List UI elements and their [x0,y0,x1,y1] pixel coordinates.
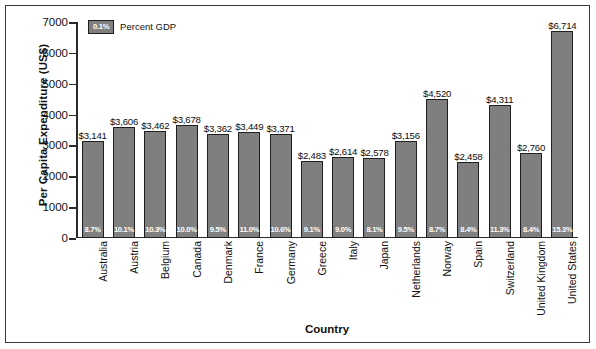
x-axis-tick-label: Canada [191,241,203,278]
x-axis-tick-label: Italy [347,241,359,260]
bar-slot: $2,5788.1% [359,22,390,238]
bar-series: $3,1418.7%$3,60610.1%$3,46210.3%$3,67810… [77,22,578,238]
x-tick-slot: Australia [77,241,108,319]
x-tick-slot: Norway [421,241,452,319]
y-axis-tick-label: 4000 [22,110,68,122]
bar-percent-gdp-label: 9.1% [304,225,320,234]
y-axis-tick [69,238,76,240]
bar-percent-gdp-label: 9.5% [398,225,414,234]
bar-slot: $2,7608.4% [515,22,546,238]
y-axis-tick-label: 5000 [22,79,68,91]
bar[interactable]: $3,67810.0% [176,125,198,238]
bar-percent-gdp-label: 9.0% [335,225,351,234]
bar-value-label: $2,483 [298,150,326,161]
y-axis-tick [69,145,76,147]
bar-percent-gdp-label: 10.0% [177,225,197,234]
x-axis-tick-label: Netherlands [410,241,422,298]
y-axis-tick-label: 1000 [22,202,68,214]
y-axis-tick-label: 2000 [22,171,68,183]
x-axis-tick-label: Japan [378,241,390,270]
bar[interactable]: $3,1418.7% [82,141,104,238]
y-axis-tick [69,207,76,209]
bar[interactable]: $3,37110.6% [270,134,292,238]
x-axis-tick-label: Germany [285,241,297,284]
legend-swatch-percent-gdp: 0.1% [88,20,114,34]
bar-slot: $3,67810.0% [171,22,202,238]
bar-value-label: $4,520 [423,88,451,99]
bar-value-label: $3,362 [204,123,232,134]
bar-slot: $3,3629.5% [202,22,233,238]
bar[interactable]: $3,3629.5% [207,134,229,238]
y-axis-tick [69,22,76,24]
bar-value-label: $4,311 [486,94,513,105]
x-tick-slot: Netherlands [390,241,421,319]
x-tick-slot: France [234,241,265,319]
x-axis-tick-label: Greece [316,241,328,275]
bar-percent-gdp-label: 15.3% [552,225,572,234]
bar-percent-gdp-label: 8.4% [523,225,539,234]
x-tick-slot: Spain [453,241,484,319]
bar-slot: $4,5208.7% [421,22,452,238]
bar[interactable]: $2,7608.4% [520,153,542,238]
bar-value-label: $3,449 [235,121,263,132]
bar[interactable]: $4,5208.7% [426,99,448,238]
bar-value-label: $2,760 [517,142,545,153]
x-tick-slot: Germany [265,241,296,319]
x-axis-tick-label: Belgium [159,241,171,279]
bar-percent-gdp-label: 10.1% [114,225,134,234]
x-axis-tick-labels: AustraliaAustriaBelgiumCanadaDenmarkFran… [77,241,578,319]
bar-slot: $3,60610.1% [108,22,139,238]
y-axis-tick [69,53,76,55]
bar-percent-gdp-label: 11.0% [239,225,259,234]
bar[interactable]: $4,31111.3% [489,105,511,238]
bar-value-label: $2,458 [454,151,482,162]
bar-value-label: $3,371 [266,123,294,134]
chart-figure: Per Capita Expenditure (US$) $3,1418.7%$… [0,0,596,349]
x-tick-slot: Denmark [202,241,233,319]
x-axis-tick-label: Spain [472,241,484,268]
bar-slot: $3,1569.5% [390,22,421,238]
y-axis-tick-label: 3000 [22,140,68,152]
x-axis-tick-label: Denmark [222,241,234,284]
bar[interactable]: $2,4588.4% [457,162,479,238]
bar[interactable]: $3,46210.3% [144,131,166,238]
bar[interactable]: $3,60610.1% [113,127,135,238]
x-tick-slot: Belgium [140,241,171,319]
bar-slot: $4,31111.3% [484,22,515,238]
x-tick-slot: Switzerland [484,241,515,319]
bar-slot: $2,4588.4% [453,22,484,238]
y-axis-tick-label: 7000 [22,17,68,29]
bar-percent-gdp-label: 9.5% [210,225,226,234]
legend-label-percent-gdp: Percent GDP [120,21,176,32]
x-tick-slot: Japan [359,241,390,319]
bar-value-label: $3,606 [110,116,138,127]
x-tick-slot: United Kingdom [515,241,546,319]
x-axis-tick-label: United Kingdom [535,241,547,316]
bar-percent-gdp-label: 8.7% [429,225,445,234]
bar-percent-gdp-label: 8.4% [460,225,476,234]
x-tick-slot: Austria [108,241,139,319]
y-axis-tick-label: 6000 [22,48,68,60]
bar-value-label: $6,714 [548,20,576,31]
bar[interactable]: $6,71415.3% [551,31,573,238]
bar-percent-gdp-label: 8.7% [85,225,101,234]
bar[interactable]: $2,6149.0% [332,157,354,238]
x-axis-tick-label: Norway [441,241,453,277]
bar-value-label: $3,141 [79,130,107,141]
bar[interactable]: $2,5788.1% [363,158,385,238]
x-tick-slot: Greece [296,241,327,319]
bar-percent-gdp-label: 8.1% [366,225,382,234]
bar-slot: $3,1418.7% [77,22,108,238]
bar-percent-gdp-label: 10.3% [145,225,165,234]
x-axis-title: Country [76,323,578,335]
bar[interactable]: $3,1569.5% [395,141,417,238]
bar-slot: $3,46210.3% [140,22,171,238]
bar-slot: $3,37110.6% [265,22,296,238]
x-axis-tick-label: France [253,241,265,274]
y-axis-tick [69,176,76,178]
bar-slot: $2,4839.1% [296,22,327,238]
y-axis-tick-label: 0 [22,233,68,245]
bar[interactable]: $2,4839.1% [301,161,323,238]
bar[interactable]: $3,44911.0% [238,132,260,238]
bar-value-label: $3,462 [141,120,169,131]
